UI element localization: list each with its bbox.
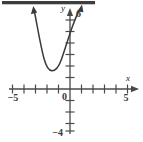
y-min-tick-label: −4 — [52, 127, 63, 138]
origin-label: 0 — [62, 91, 67, 102]
y-axis-label: y — [60, 3, 65, 13]
y-axis-arrowhead — [67, 8, 73, 16]
x-axis-arrowhead — [131, 86, 139, 92]
parabola-curve — [35, 10, 80, 71]
x-min-tick-label: −5 — [8, 92, 19, 103]
x-axis-label: x — [125, 73, 130, 83]
coordinate-plane-svg: x y 0 −5 5 6 −4 — [0, 0, 143, 142]
top-page-bar — [2, 1, 95, 5]
parabola-left-arrowhead — [31, 6, 37, 14]
y-max-tick-label: 6 — [76, 8, 81, 19]
graph-figure: x y 0 −5 5 6 −4 — [0, 0, 143, 142]
x-max-tick-label: 5 — [124, 92, 129, 103]
axes-group — [9, 8, 139, 134]
